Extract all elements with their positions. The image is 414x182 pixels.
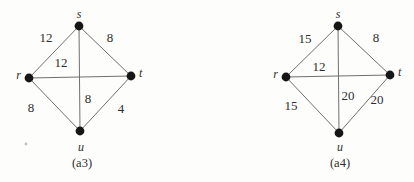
- vertex-r-label: r: [273, 67, 278, 81]
- graph-a3-caption: (a3): [72, 156, 92, 170]
- edge-s-t: [338, 26, 390, 75]
- vertex-u-label: u: [78, 140, 84, 154]
- edge-weight-u-t: 4: [118, 101, 125, 116]
- edge-weight-s-u: 8: [85, 91, 92, 106]
- vertex-r-dot: [282, 73, 291, 82]
- edge-r-u: [29, 78, 80, 131]
- edge-weight-r-u: 15: [285, 98, 298, 113]
- vertex-r-label: r: [16, 68, 21, 82]
- vertex-t-label: t: [398, 65, 402, 79]
- vertex-s-label: s: [77, 7, 82, 21]
- edge-s-r: [29, 26, 79, 78]
- edge-weight-s-t: 8: [373, 30, 380, 45]
- edge-weight-r-t: 12: [55, 55, 68, 70]
- edge-weight-s-r: 15: [299, 31, 312, 46]
- edge-weight-s-u: 20: [342, 88, 355, 103]
- vertex-r-dot: [25, 74, 34, 83]
- graph-figure: s r t u 12 8 12 8 8 4 (a3): [0, 0, 414, 182]
- scan-artifact-dot: [25, 143, 28, 146]
- vertex-t-dot: [386, 71, 395, 80]
- edge-s-u: [79, 26, 80, 131]
- edge-weight-s-r: 12: [40, 30, 53, 45]
- graphs-canvas: s r t u 12 8 12 8 8 4 (a3): [0, 0, 414, 182]
- vertex-s-dot: [75, 22, 84, 31]
- graph-a4-caption: (a4): [330, 156, 350, 170]
- graph-a4: s r t u 15 8 12 20 15 20 (a4): [273, 7, 402, 170]
- edge-weight-r-u: 8: [28, 100, 35, 115]
- vertex-u-dot: [76, 127, 85, 136]
- edge-s-u: [338, 26, 339, 133]
- edge-weight-u-t: 20: [371, 92, 384, 107]
- vertex-t-label: t: [139, 66, 143, 80]
- vertex-s-dot: [334, 22, 343, 31]
- edge-s-t: [79, 26, 131, 76]
- edge-r-t: [29, 76, 131, 78]
- edge-weight-s-t: 8: [107, 30, 114, 45]
- vertex-s-label: s: [336, 7, 341, 21]
- edge-weight-r-t: 12: [313, 59, 326, 74]
- vertex-u-dot: [335, 129, 344, 138]
- graph-a3: s r t u 12 8 12 8 8 4 (a3): [16, 7, 143, 170]
- vertex-u-label: u: [337, 140, 343, 154]
- vertex-t-dot: [127, 72, 136, 81]
